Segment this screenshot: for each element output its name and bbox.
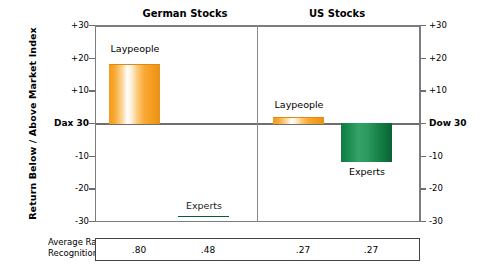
ytick-label-left-10n: -10: [47, 152, 89, 161]
recognition-value-german-experts: .48: [174, 239, 242, 262]
ytick-label-right-30p: +30: [429, 21, 482, 30]
ytick-label-left-30p: +30: [47, 21, 89, 30]
plot-panel: +30 +20 +10 Dax 30 -10 -20 -30 +30 +20 +…: [95, 25, 420, 222]
tick-right-10p: [420, 90, 426, 91]
bar-label-german-laypeople: Laypeople: [101, 43, 169, 54]
ytick-label-right-30n: -30: [429, 217, 482, 226]
tick-left-10n: [89, 156, 95, 157]
ytick-label-left-20n: -20: [47, 184, 89, 193]
ytick-label-left-zero-dax: Dax 30: [35, 119, 89, 128]
tick-right-20n: [420, 188, 426, 189]
tick-left-10p: [89, 90, 95, 91]
recognition-value-us-laypeople: .27: [269, 239, 337, 262]
bar-german-laypeople: [109, 64, 160, 124]
tick-right-30n: [420, 221, 426, 222]
ytick-label-right-10n: -10: [429, 152, 482, 161]
bar-label-german-experts: Experts: [170, 200, 238, 211]
tick-right-30p: [420, 25, 426, 26]
ytick-label-right-10p: +10: [429, 86, 482, 95]
chart-figure: Return Below / Above Market Index German…: [0, 0, 482, 274]
ytick-label-left-20p: +20: [47, 54, 89, 63]
ytick-label-right-20n: -20: [429, 184, 482, 193]
tick-right-zero: [420, 123, 426, 124]
bar-label-us-laypeople: Laypeople: [265, 99, 333, 110]
tick-left-zero: [89, 123, 95, 124]
recognition-value-us-experts: .27: [337, 239, 405, 262]
ytick-label-right-zero-dow: Dow 30: [429, 119, 482, 128]
bar-label-us-experts: Experts: [333, 166, 401, 177]
panel-title-us-stocks: US Stocks: [262, 8, 412, 19]
ytick-label-right-20p: +20: [429, 54, 482, 63]
ytick-label-left-10p: +10: [47, 86, 89, 95]
ytick-label-left-30n: -30: [47, 217, 89, 226]
recognition-table: .80 .48 .27 .27: [95, 238, 420, 261]
bar-us-experts: [341, 123, 392, 162]
tick-right-10n: [420, 156, 426, 157]
panel-title-german-stocks: German Stocks: [110, 8, 260, 19]
tick-left-30n: [89, 221, 95, 222]
panel-divider: [257, 25, 258, 222]
bar-us-laypeople: [273, 117, 324, 124]
tick-left-20p: [89, 58, 95, 59]
tick-left-20n: [89, 188, 95, 189]
tick-left-30p: [89, 25, 95, 26]
recognition-value-german-laypeople: .80: [105, 239, 173, 262]
tick-right-20p: [420, 58, 426, 59]
